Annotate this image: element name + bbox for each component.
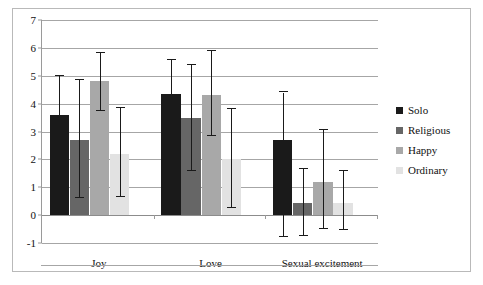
error-bar-cap-lower [96,110,105,111]
error-bar [171,60,172,128]
plot-area: -101234567 JoyLoveSexual excitement [41,20,378,243]
legend-swatch-icon [396,107,403,114]
bar-group-bars [155,20,267,243]
error-bar [120,108,121,197]
legend-item-label: Happy [408,145,437,156]
y-tick-mark [38,103,42,104]
y-tick-mark [38,215,42,216]
error-bar-cap-lower [116,196,125,197]
error-bar-cap-upper [55,75,64,76]
error-bar-cap-lower [187,170,196,171]
error-bar-cap-upper [299,168,308,169]
error-bar [59,76,60,154]
error-bar-cap-upper [339,170,348,171]
error-bar-cap-upper [75,79,84,80]
error-bar-cap-upper [187,64,196,65]
error-bar-cap-upper [167,59,176,60]
legend-swatch-icon [396,127,403,134]
error-bar [343,171,344,231]
x-tick-mark [377,215,378,219]
y-tick-label: 3 [31,126,37,137]
error-bar-cap-upper [116,107,125,108]
error-bar [79,80,80,198]
legend-item-religious[interactable]: Religious [396,120,466,140]
bar-groups: JoyLoveSexual excitement [43,20,378,243]
chart-figure: -101234567 JoyLoveSexual excitement Solo… [0,0,483,285]
legend-swatch-icon [396,147,403,154]
y-tick-label: 6 [31,42,37,53]
error-bar-cap-upper [207,50,216,51]
error-bar [211,51,212,136]
x-axis-rule [41,265,378,266]
y-tick-label: 2 [31,154,37,165]
chart-legend: SoloReligiousHappyOrdinary [396,100,466,180]
error-bar [323,130,324,229]
error-bar-cap-lower [55,153,64,154]
error-bar-cap-upper [319,129,328,130]
legend-item-label: Ordinary [408,165,448,176]
error-bar-cap-upper [279,91,288,92]
x-axis-label: Joy [91,257,106,269]
y-tick-label: 1 [31,182,37,193]
error-bar [231,109,232,208]
bar-group-bars [266,20,378,243]
bar-group-bars [43,20,155,243]
legend-item-label: Solo [408,105,428,116]
legend-item-label: Religious [408,125,450,136]
y-tick-mark [38,20,42,21]
error-bar [283,93,284,238]
error-bar-cap-lower [279,236,288,237]
error-bar [191,65,192,171]
y-tick-label: 4 [31,98,37,109]
y-tick-label: 7 [31,15,37,26]
legend-item-happy[interactable]: Happy [396,140,466,160]
gridline--1 [42,243,378,244]
legend-item-solo[interactable]: Solo [396,100,466,120]
x-axis-label: Love [199,257,222,269]
bar-group: Sexual excitement [266,20,378,243]
error-bar-cap-lower [339,229,348,230]
bar-group: Love [155,20,267,243]
error-bar-cap-lower [75,197,84,198]
legend-swatch-icon [396,167,403,174]
y-tick-mark [38,187,42,188]
y-tick-mark [38,47,42,48]
bar-group: Joy [43,20,155,243]
error-bar-cap-upper [227,108,236,109]
x-axis-label: Sexual excitement [282,257,363,269]
error-bar [303,169,304,236]
error-bar-cap-lower [227,207,236,208]
error-bar-cap-lower [167,128,176,129]
error-bar [100,53,101,110]
error-bar-cap-upper [96,52,105,53]
error-bar-cap-lower [319,228,328,229]
y-tick-mark [38,75,42,76]
y-tick-mark [38,159,42,160]
y-tick-mark [38,243,42,244]
y-tick-label: 5 [31,70,37,81]
error-bar-cap-lower [299,235,308,236]
y-tick-mark [38,131,42,132]
y-tick-label: -1 [27,238,36,249]
legend-item-ordinary[interactable]: Ordinary [396,160,466,180]
error-bar-cap-lower [207,135,216,136]
y-tick-label: 0 [31,210,37,221]
